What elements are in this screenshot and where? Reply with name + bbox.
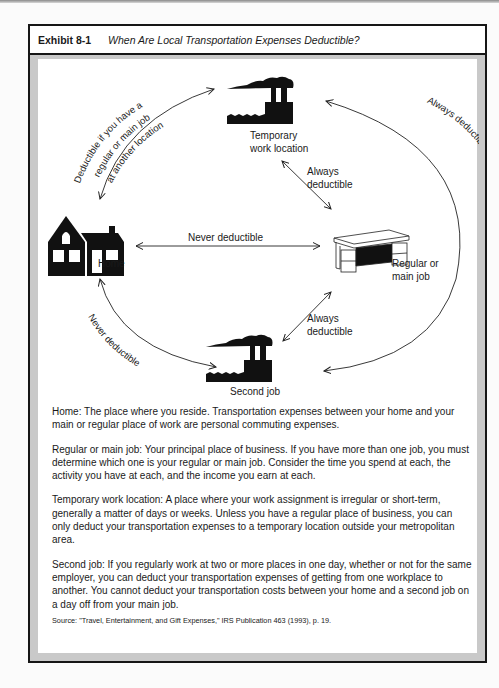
factory-icon-temporary xyxy=(227,77,294,124)
definition-home: Home: The place where you reside. Transp… xyxy=(52,405,472,432)
page-top-rule xyxy=(0,0,499,3)
label-regular-second: Always deductible xyxy=(307,312,353,338)
definition-regular-job: Regular or main job: Your principal plac… xyxy=(52,443,472,483)
exhibit-frame: Exhibit 8-1 When Are Local Transportatio… xyxy=(28,24,487,663)
node-temporary-label: Temporary work location xyxy=(250,129,308,155)
label-temporary-regular: Always deductible xyxy=(307,165,353,191)
definition-second-job: Second job: If you regularly work at two… xyxy=(52,558,472,611)
node-home-label: Home xyxy=(98,257,125,270)
node-second-label: Second job xyxy=(230,385,280,398)
label-home-regular: Never deductible xyxy=(188,231,263,244)
exhibit-title: When Are Local Transportation Expenses D… xyxy=(108,34,360,46)
label-home-second: Never deductible xyxy=(86,312,142,368)
exhibit-body: Deductible if you have a regular or main… xyxy=(30,55,485,661)
factory-icon-second xyxy=(206,335,273,382)
source-citation: Source: "Travel, Entertainment, and Gift… xyxy=(52,614,472,627)
label-temporary-second: Always deductible xyxy=(426,94,479,152)
exhibit-header: Exhibit 8-1 When Are Local Transportatio… xyxy=(30,26,485,55)
exhibit-panel: Deductible if you have a regular or main… xyxy=(38,59,477,653)
definitions: Home: The place where you reside. Transp… xyxy=(52,405,472,627)
exhibit-number: Exhibit 8-1 xyxy=(38,34,91,46)
node-regular-label: Regular or main job xyxy=(392,257,439,283)
definition-temporary-location: Temporary work location: A place where y… xyxy=(52,493,472,546)
